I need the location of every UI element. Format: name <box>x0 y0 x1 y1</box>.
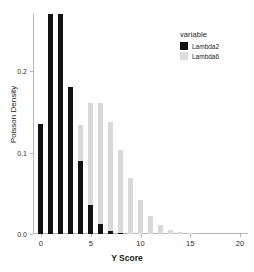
bar-lambda6-x12 <box>158 225 163 234</box>
legend: variable Lambda2Lambda6 <box>180 30 250 62</box>
y-axis-title: Poisson Density <box>9 55 18 175</box>
x-tick-mark <box>190 234 191 237</box>
bar-lambda2-x3 <box>68 87 73 234</box>
y-tick-label: 0.0 <box>5 231 27 238</box>
poisson-density-chart: 0.00.10.2 05101520 Poisson Density Y Sco… <box>0 0 254 272</box>
bar-lambda2-x0 <box>38 124 43 234</box>
x-tick-mark <box>91 234 92 237</box>
bar-lambda6-x9 <box>128 178 133 234</box>
legend-item-label: Lambda6 <box>192 53 219 60</box>
legend-item-lambda6: Lambda6 <box>180 52 250 60</box>
legend-item-label: Lambda2 <box>192 43 219 50</box>
x-tick-label: 10 <box>136 239 144 248</box>
legend-swatch-icon <box>180 52 188 60</box>
x-axis-title: Y Score <box>0 253 254 263</box>
bar-lambda2-x2 <box>58 14 63 234</box>
x-tick-mark <box>141 234 142 237</box>
bar-lambda6-x7 <box>108 122 113 234</box>
bar-lambda2-x6 <box>98 224 103 234</box>
bar-lambda2-x4 <box>78 161 83 234</box>
x-tick-label: 20 <box>236 239 244 248</box>
legend-swatch-icon <box>180 42 188 50</box>
bar-lambda6-x15 <box>188 233 193 234</box>
y-tick-mark <box>30 234 33 235</box>
bar-lambda6-x14 <box>178 232 183 234</box>
y-tick-mark <box>30 71 33 72</box>
bar-lambda2-x7 <box>108 231 113 234</box>
x-tick-label: 0 <box>39 239 43 248</box>
bar-lambda2-x5 <box>88 205 93 234</box>
legend-item-lambda2: Lambda2 <box>180 42 250 50</box>
legend-entries: Lambda2Lambda6 <box>180 42 250 60</box>
bar-lambda6-x11 <box>148 216 153 234</box>
bar-lambda6-x13 <box>168 230 173 234</box>
x-tick-label: 15 <box>186 239 194 248</box>
x-tick-label: 5 <box>89 239 93 248</box>
bar-lambda2-x8 <box>118 233 123 234</box>
x-tick-mark <box>41 234 42 237</box>
bar-lambda6-x10 <box>138 200 143 234</box>
x-tick-mark <box>240 234 241 237</box>
legend-title: variable <box>180 30 250 39</box>
bar-lambda6-x8 <box>118 150 123 234</box>
bar-lambda6-x6 <box>98 103 103 234</box>
y-tick-mark <box>30 153 33 154</box>
bar-lambda2-x1 <box>48 14 53 234</box>
